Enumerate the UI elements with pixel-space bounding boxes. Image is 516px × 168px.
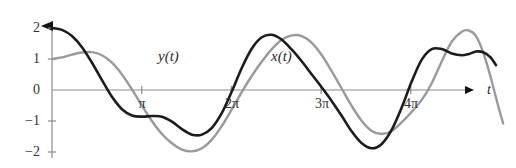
curve-label-x-of-t: x(t) <box>271 48 292 65</box>
x-tick-label-2pi: 2π <box>218 96 246 112</box>
y-tick-label-1: 1 <box>18 51 40 67</box>
y-tick-label-minus-2: −2 <box>14 144 40 160</box>
plot-canvas <box>0 0 516 168</box>
x-tick-label-pi: π <box>130 96 154 112</box>
x-axis-name-label: t <box>487 82 491 98</box>
signal-plot-figure: 2 1 0 −1 −2 π 2π 3π 4π y(t) x(t) t <box>0 0 516 168</box>
y-tick-label-2: 2 <box>18 20 40 36</box>
x-tick-label-4pi: 4π <box>397 96 425 112</box>
curve-label-y-of-t: y(t) <box>158 48 179 65</box>
y-tick-label-minus-1: −1 <box>14 113 40 129</box>
x-tick-label-3pi: 3π <box>308 96 336 112</box>
y-tick-label-0: 0 <box>18 82 40 98</box>
